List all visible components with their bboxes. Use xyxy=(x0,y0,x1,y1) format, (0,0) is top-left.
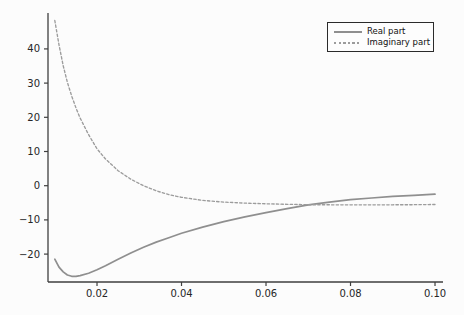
y-tick-label: 10 xyxy=(27,146,40,157)
legend-item-imaginary-part: Imaginary part xyxy=(334,37,428,48)
y-tick-label: 40 xyxy=(27,43,40,54)
legend-item-real-part: Real part xyxy=(334,26,428,37)
legend-line-solid-icon xyxy=(334,31,362,33)
y-tick-label: −20 xyxy=(19,249,40,260)
series-line-real-part xyxy=(55,194,435,276)
x-tick-label: 0.10 xyxy=(424,288,446,299)
legend-label-imaginary-part: Imaginary part xyxy=(367,38,430,47)
legend-label-real-part: Real part xyxy=(367,27,405,36)
x-tick-label: 0.02 xyxy=(86,288,108,299)
legend-line-dashed-icon xyxy=(334,42,362,44)
y-tick-label: 20 xyxy=(27,112,40,123)
legend: Real part Imaginary part xyxy=(327,22,434,52)
x-tick-label: 0.04 xyxy=(170,288,192,299)
x-tick-label: 0.08 xyxy=(339,288,361,299)
y-tick-label: −10 xyxy=(19,214,40,225)
y-tick-label: 30 xyxy=(27,78,40,89)
y-tick-label: 0 xyxy=(34,180,40,191)
figure: 0.020.040.060.080.10−20−10010203040 Real… xyxy=(0,0,464,315)
x-tick-label: 0.06 xyxy=(255,288,277,299)
